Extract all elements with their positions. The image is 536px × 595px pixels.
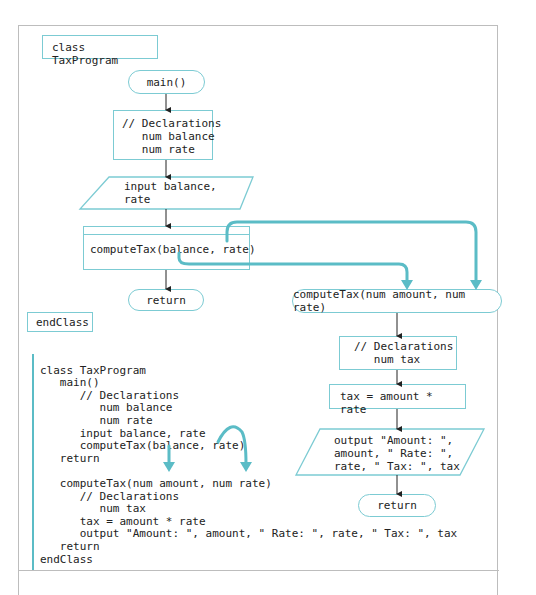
parameter-arrowheads <box>163 280 482 472</box>
input-parallelogram <box>80 177 253 209</box>
parameter-arrows <box>169 222 476 464</box>
main-flow-arrows <box>166 94 397 494</box>
output-parallelogram <box>296 429 484 475</box>
